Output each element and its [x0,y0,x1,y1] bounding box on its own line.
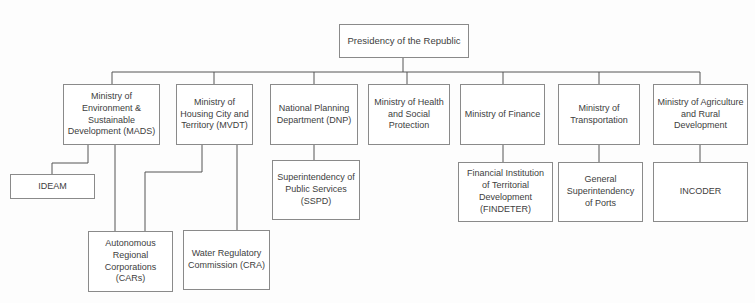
node-national-planning-dnp: National Planning Department (DNP) [270,84,358,145]
node-ministry-housing-mvdt: Ministry of Housing City and Territory (… [176,84,253,145]
node-presidency-of-the-republic: Presidency of the Republic [339,24,469,58]
org-chart: Presidency of the Republic Ministry of E… [0,0,755,303]
node-ministry-health-social-protection: Ministry of Health and Social Protection [368,84,450,145]
node-water-regulatory-commission-cra: Water Regulatory Commission (CRA) [183,230,270,290]
node-findeter: Financial Institution of Territorial Dev… [458,162,553,222]
edge-mvdt-cars [145,145,202,231]
node-ministry-agriculture-rural-development: Ministry of Agriculture and Rural Develo… [653,84,748,145]
node-superintendency-public-services-sspd: Superintendency of Public Services (SSPD… [272,160,360,220]
node-general-superintendency-ports: General Superintendency of Ports [558,162,643,222]
node-ideam: IDEAM [10,174,95,199]
node-ministry-finance: Ministry of Finance [460,84,545,145]
node-ministry-environment-mads: Ministry of Environment & Sustainable De… [63,84,160,145]
edge-mads-ideam [52,145,88,174]
node-autonomous-regional-corporations-cars: Autonomous Regional Corporations (CARs) [88,231,173,292]
node-ministry-transportation: Ministry of Transportation [558,84,640,145]
node-incoder: INCODER [653,162,748,222]
